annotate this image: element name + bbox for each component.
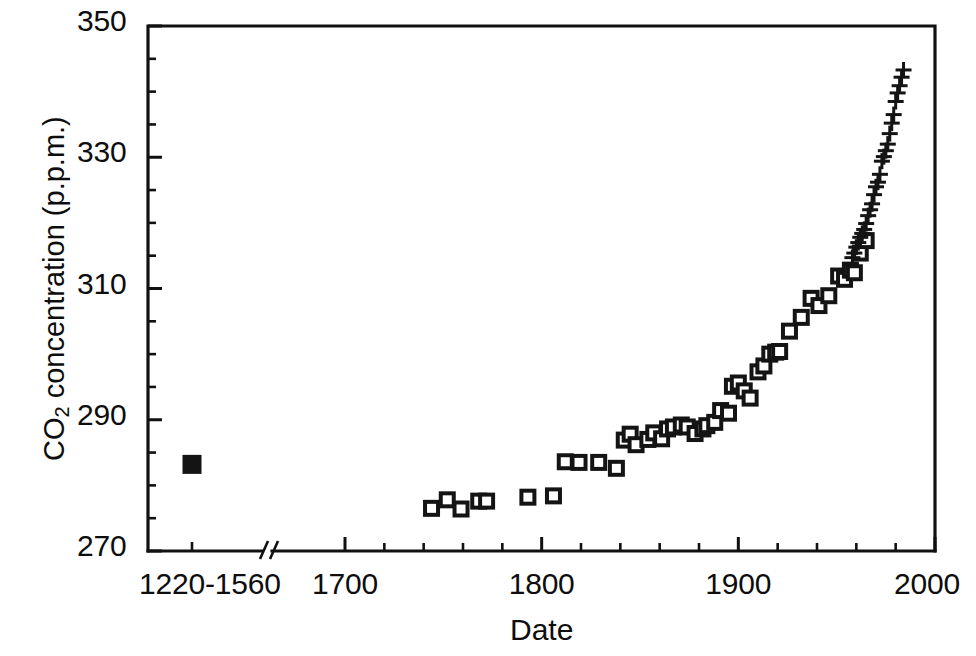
- x-tick-label-1700: 1700: [312, 567, 378, 601]
- plot-frame: [148, 26, 935, 551]
- data-point-open-square: [480, 495, 493, 508]
- data-point-filled-square: [185, 457, 200, 472]
- ticks-group: [148, 26, 935, 551]
- y-tick-label-270: 270: [77, 529, 126, 563]
- data-point-open-square: [773, 345, 786, 358]
- series-open-square: [425, 234, 873, 515]
- data-point-open-square: [783, 325, 796, 338]
- data-markers-group: [185, 62, 912, 516]
- data-point-open-square: [744, 392, 757, 405]
- data-point-open-square: [441, 493, 454, 506]
- data-point-open-square: [592, 456, 605, 469]
- y-axis-title-prefix: CO: [38, 418, 70, 462]
- data-point-open-square: [848, 266, 861, 279]
- y-tick-label-290: 290: [77, 398, 126, 432]
- y-tick-label-350: 350: [77, 4, 126, 38]
- chart-plot-area: [0, 0, 976, 656]
- data-point-open-square: [425, 502, 438, 515]
- axes-group: [148, 26, 935, 551]
- data-point-open-square: [521, 491, 534, 504]
- chart-figure: CO2 concentration (p.p.m.) Date 35033031…: [0, 0, 976, 656]
- data-point-open-square: [610, 462, 623, 475]
- data-point-open-square: [547, 489, 560, 502]
- y-tick-label-310: 310: [77, 267, 126, 301]
- data-point-open-square: [822, 289, 835, 302]
- data-point-open-square: [573, 456, 586, 469]
- data-point-open-square: [559, 455, 572, 468]
- y-tick-label-330: 330: [77, 135, 126, 169]
- x-tick-label-1800: 1800: [509, 567, 575, 601]
- y-axis-title: CO2 concentration (p.p.m.): [38, 116, 71, 461]
- y-axis-title-subscript: 2: [51, 406, 73, 417]
- x-axis-title: Date: [510, 613, 573, 647]
- x-tick-label-1900: 1900: [705, 567, 771, 601]
- axis-break-marker: [260, 541, 278, 559]
- x-tick-label-break: 1220-1560: [139, 567, 281, 601]
- data-point-open-square: [455, 503, 468, 516]
- series-filled-square: [185, 457, 200, 472]
- data-point-open-square: [722, 407, 735, 420]
- data-point-open-square: [795, 311, 808, 324]
- x-tick-label-2000: 2000: [894, 567, 960, 601]
- y-axis-title-suffix: concentration (p.p.m.): [38, 116, 70, 406]
- series-plus: [844, 62, 911, 266]
